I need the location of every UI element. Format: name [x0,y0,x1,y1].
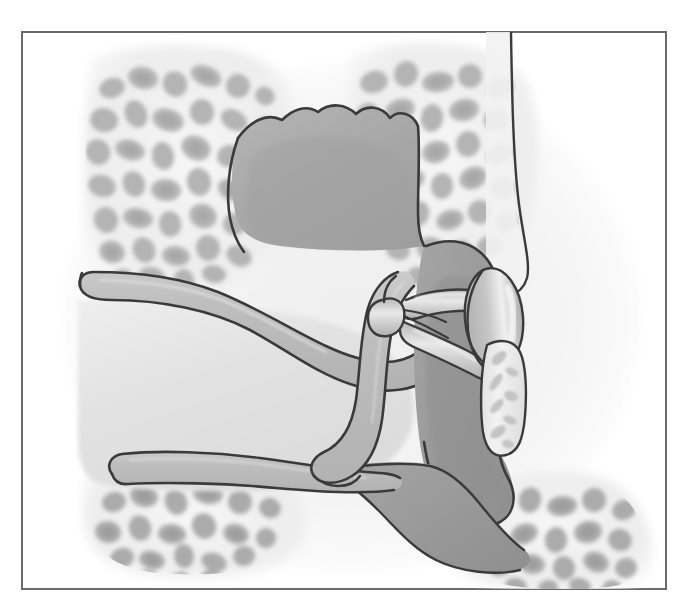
epitympanic-mass [228,105,424,252]
bony-ridge-fragment [481,341,526,456]
anatomy-illustration-canvas [0,0,684,604]
illustration-figure [0,0,684,604]
